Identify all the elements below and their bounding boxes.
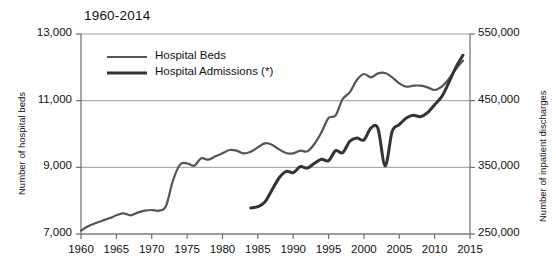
y-axis-title-left: Number of hospital beds bbox=[16, 92, 27, 195]
y-tick-label-left: 9,000 bbox=[0, 159, 72, 171]
y-tick-label-right: 250,000 bbox=[478, 226, 520, 238]
chart-canvas bbox=[0, 0, 556, 268]
legend-label-2: Hospital Admissions (*) bbox=[155, 65, 273, 77]
y-tick-label-right: 450,000 bbox=[478, 93, 520, 105]
x-tick-label: 2015 bbox=[448, 243, 492, 255]
y-tick-label-left: 13,000 bbox=[0, 26, 72, 38]
legend-label-1: Hospital Beds bbox=[155, 49, 226, 61]
chart-figure: 1960-2014 7,0009,00011,00013,000250,0003… bbox=[0, 0, 556, 268]
y-tick-label-right: 350,000 bbox=[478, 159, 520, 171]
y-tick-label-left: 7,000 bbox=[0, 226, 72, 238]
series-line-1 bbox=[81, 61, 463, 231]
y-tick-label-right: 550,000 bbox=[478, 26, 520, 38]
y-tick-label-left: 11,000 bbox=[0, 93, 72, 105]
y-axis-title-right: Number of inpatient discharges bbox=[537, 91, 548, 223]
